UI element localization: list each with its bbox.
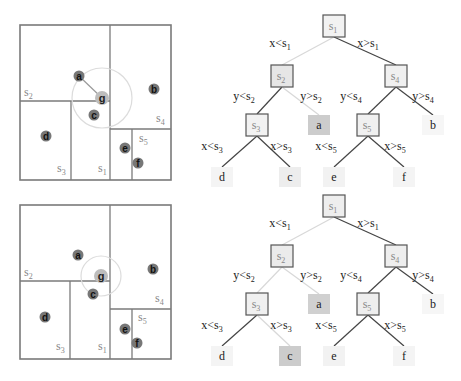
split-label-s5: s5 (139, 131, 148, 147)
svg-text:g: g (98, 270, 105, 282)
split-label-s4: s4 (156, 111, 165, 127)
point-c: c (88, 289, 99, 300)
edge-condition-s4-b: y>s4 (412, 268, 433, 284)
svg-text:d: d (219, 170, 225, 184)
space-bounding-box (20, 25, 171, 180)
edge-condition-s3-c: x>s3 (270, 318, 291, 334)
tree-edge-s5-e (334, 136, 368, 167)
svg-text:a: a (75, 250, 81, 261)
svg-text:d: d (43, 131, 49, 142)
split-label-s1: s1 (98, 161, 107, 177)
svg-text:b: b (430, 297, 436, 311)
edge-condition-s4-s5: y<s4 (340, 89, 361, 105)
leaf-node-c: c (279, 346, 301, 366)
svg-text:e: e (122, 324, 128, 335)
svg-text:b: b (151, 84, 157, 95)
bottom-space-partition: s1s2s3s4s5abcdefg (20, 205, 171, 359)
leaf-node-f: f (393, 346, 415, 366)
point-b: b (149, 84, 160, 95)
leaf-node-c: c (279, 167, 301, 187)
svg-text:a: a (76, 71, 82, 82)
svg-text:e: e (331, 170, 336, 184)
svg-text:e: e (122, 143, 128, 154)
edge-condition-s4-b: y>s4 (412, 89, 433, 105)
svg-text:c: c (287, 170, 292, 184)
svg-text:a: a (316, 118, 322, 132)
leaf-node-a: a (308, 294, 330, 314)
space-bounding-box (20, 205, 171, 359)
leaf-node-b: b (422, 294, 444, 314)
svg-text:a: a (316, 297, 322, 311)
svg-text:b: b (430, 118, 436, 132)
split-node-s2: s2 (271, 245, 293, 267)
split-label-s3: s3 (57, 161, 66, 177)
leaf-node-e: e (323, 167, 345, 187)
point-d: d (40, 312, 51, 323)
tree-edge-s2-s3 (257, 267, 282, 293)
svg-text:f: f (402, 170, 406, 184)
svg-text:c: c (91, 110, 97, 121)
leaf-node-e: e (323, 346, 345, 366)
point-b: b (148, 264, 159, 275)
svg-text:d: d (42, 312, 48, 323)
point-e: e (120, 143, 131, 154)
edge-condition-s5-e: x<s5 (315, 318, 336, 334)
point-a: a (73, 250, 84, 261)
top-space-partition: s1s2s3s4s5abcdefg (20, 25, 171, 180)
edge-condition-s1-s4: x>s1 (357, 216, 378, 232)
tree-edge-s4-s5 (368, 87, 396, 114)
query-point-g: g (95, 91, 109, 105)
split-label-s2: s2 (24, 265, 33, 281)
split-node-s1: s1 (323, 195, 345, 217)
point-e: e (120, 324, 131, 335)
edge-condition-s3-d: x<s3 (201, 318, 222, 334)
split-node-s2: s2 (271, 65, 293, 87)
split-node-s5: s5 (357, 114, 379, 136)
point-c: c (89, 110, 100, 121)
tree-edge-s2-s3 (257, 87, 282, 114)
svg-text:f: f (402, 349, 406, 363)
edge-condition-s2-s3: y<s2 (233, 268, 254, 284)
tree-edge-s3-d (222, 136, 257, 167)
tree-edge-s4-s5 (368, 267, 396, 293)
edge-condition-s3-d: x<s3 (201, 139, 222, 155)
edge-condition-s1-s2: x<s1 (269, 216, 290, 232)
split-node-s4: s4 (385, 245, 407, 267)
split-label-s2: s2 (24, 85, 33, 101)
kd-tree-diagram: s1s2s3s4s5abcdefg x<s1x>s1y<s2y>s2y<s4y>… (0, 0, 461, 381)
point-a: a (74, 71, 85, 82)
point-f: f (132, 338, 143, 349)
tree-edge-s3-d (222, 315, 257, 346)
svg-text:c: c (90, 289, 96, 300)
edge-condition-s3-c: x>s3 (270, 139, 291, 155)
leaf-node-b: b (422, 115, 444, 135)
svg-text:d: d (219, 349, 225, 363)
split-label-s5: s5 (138, 310, 147, 326)
split-node-s5: s5 (357, 293, 379, 315)
leaf-node-d: d (211, 346, 233, 366)
leaf-node-f: f (393, 167, 415, 187)
edge-condition-s5-f: x>s5 (384, 318, 405, 334)
split-label-s4: s4 (155, 291, 164, 307)
edge-condition-s2-a: y>s2 (300, 89, 321, 105)
svg-text:e: e (331, 349, 336, 363)
leaf-node-a: a (308, 115, 330, 135)
svg-text:c: c (287, 349, 292, 363)
tree-edge-s5-e (334, 315, 368, 346)
edge-condition-s1-s4: x>s1 (357, 36, 378, 52)
edge-condition-s5-e: x<s5 (315, 139, 336, 155)
edge-condition-s1-s2: x<s1 (269, 36, 290, 52)
top-kd-tree: x<s1x>s1y<s2y>s2y<s4y>s4x<s3x>s3x<s5x>s5… (201, 15, 444, 187)
edge-condition-s5-f: x>s5 (384, 139, 405, 155)
svg-text:g: g (99, 92, 106, 104)
leaf-node-d: d (211, 167, 233, 187)
edge-condition-s4-s5: y<s4 (340, 268, 361, 284)
point-d: d (41, 131, 52, 142)
bottom-kd-tree: x<s1x>s1y<s2y>s2y<s4y>s4x<s3x>s3x<s5x>s5… (201, 195, 444, 366)
point-f: f (133, 158, 144, 169)
split-label-s1: s1 (98, 339, 107, 355)
edge-condition-s2-a: y>s2 (300, 268, 321, 284)
split-node-s3: s3 (246, 114, 268, 136)
split-label-s3: s3 (56, 339, 65, 355)
split-node-s1: s1 (323, 15, 345, 37)
